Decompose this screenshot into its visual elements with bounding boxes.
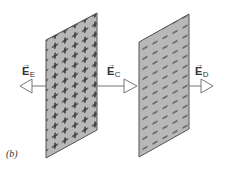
vector-arrow-icon: → [195,61,203,69]
field-arrow-e-c [97,79,137,93]
field-arrow-e-d [189,79,213,93]
figure-caption: (b) [6,148,18,159]
field-arrow-e-e [20,79,46,93]
field-label-e-d: →ED [195,66,209,79]
negative-plate [139,14,189,157]
charged-plates-diagram [0,0,225,172]
field-label-e-e: →EE [22,66,35,79]
vector-arrow-icon: → [22,61,30,69]
field-label-e-c: →EC [107,66,121,79]
vector-arrow-icon: → [107,61,115,69]
positive-plate [46,13,97,158]
